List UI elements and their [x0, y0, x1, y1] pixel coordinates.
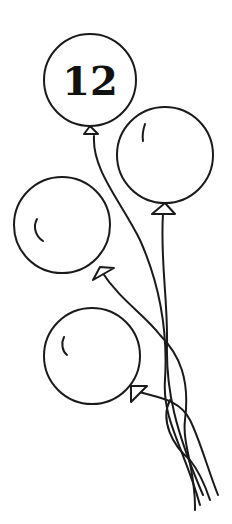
balloon-number-label: 12	[62, 57, 118, 104]
balloon-right	[117, 107, 213, 214]
balloons-drawing: 12	[0, 0, 232, 524]
balloon-bottom	[44, 308, 147, 404]
balloon-left	[14, 177, 114, 280]
balloon-illustration: 12	[0, 0, 232, 524]
balloon-numbered: 12	[44, 34, 136, 134]
